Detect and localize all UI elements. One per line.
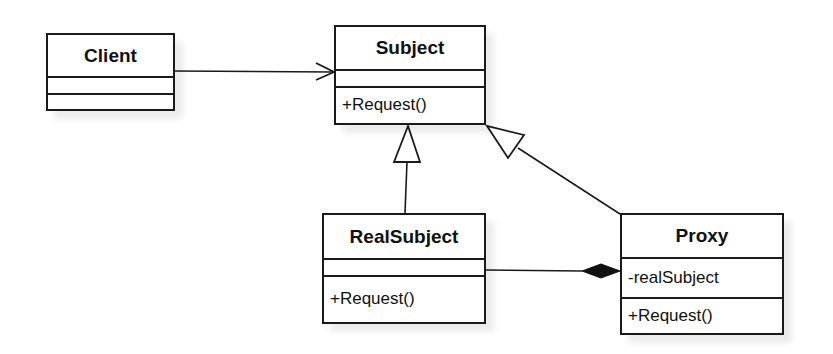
class-realsubject[interactable]: RealSubject +Request() [322,213,486,324]
generalization-realsubject-subject [394,126,420,213]
generalization-proxy-subject [487,126,620,214]
operation-request: +Request() [324,277,484,321]
class-name-compartment: RealSubject [324,215,484,260]
operations-compartment: +Request() [336,88,484,123]
operations-compartment: +Request() [622,299,782,333]
operation-request: +Request() [336,88,484,122]
class-name: Client [48,35,173,76]
attributes-compartment [336,71,484,88]
operations-compartment [48,95,173,109]
class-name: Proxy [622,215,782,257]
attributes-compartment [324,260,484,277]
composition-proxy-realsubject [485,264,620,278]
class-subject[interactable]: Subject +Request() [334,25,486,125]
class-proxy[interactable]: Proxy -realSubject +Request() [620,213,784,335]
operation-request: +Request() [622,299,782,333]
class-name-compartment: Subject [336,27,484,71]
class-client[interactable]: Client [46,33,175,111]
class-name: Subject [336,27,484,69]
class-name-compartment: Client [48,35,173,78]
attributes-compartment [48,78,173,95]
attributes-compartment: -realSubject [622,259,782,299]
association-client-subject [174,63,334,80]
class-name-compartment: Proxy [622,215,782,259]
class-name: RealSubject [324,215,484,258]
operations-compartment: +Request() [324,277,484,322]
attribute-realsubject: -realSubject [622,259,782,297]
